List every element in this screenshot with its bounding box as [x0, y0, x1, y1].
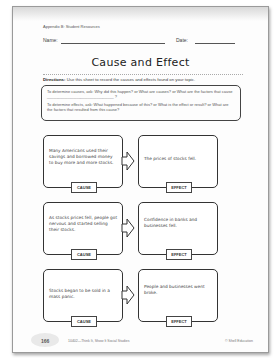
directions: Directions: Use this sheet to record the… — [43, 77, 195, 82]
cause-text: As stocks prices fell, people got nervou… — [49, 215, 118, 233]
footer-title: 10402—Think It, Show It Social Studies — [68, 339, 129, 343]
name-field[interactable] — [61, 43, 165, 44]
effect-label: EFFECT — [166, 316, 192, 327]
directions-label: Directions: — [43, 77, 65, 82]
cause-box[interactable]: As stocks prices fell, people got nervou… — [43, 202, 123, 255]
date-label: Date: — [176, 37, 188, 43]
question-box: To determine causes, ask: Why did this h… — [41, 85, 241, 121]
effect-text: Confidence in banks and businesses fell. — [144, 217, 213, 229]
page-shadow — [13, 7, 268, 21]
cause-box[interactable]: Many Americans used their savings and bo… — [43, 135, 123, 188]
cause-box[interactable]: Stocks began to be sold in a mass panic. — [43, 269, 123, 322]
effect-text: The prices of stocks fell. — [144, 156, 213, 162]
directions-text: Use this sheet to record the causes and … — [65, 77, 195, 82]
effect-box[interactable]: The prices of stocks fell. — [138, 135, 218, 188]
effect-label: EFFECT — [166, 182, 192, 193]
cause-effect-row: Many Americans used their savings and bo… — [43, 135, 257, 195]
cause-label: CAUSE — [71, 182, 97, 193]
cause-effect-row: Stocks began to be sold in a mass panic.… — [43, 269, 257, 329]
name-label: Name: — [43, 37, 58, 43]
cause-effect-row: As stocks prices fell, people got nervou… — [43, 202, 257, 262]
date-field[interactable] — [195, 43, 235, 44]
worksheet-page: Appendix B: Student Resources Name: Date… — [12, 6, 269, 353]
arrow-right-icon — [121, 218, 135, 238]
arrow-right-icon — [121, 151, 135, 171]
effect-question: To determine effects, ask: What happened… — [47, 102, 235, 112]
footer-copyright: © Shell Education — [225, 339, 253, 343]
page-number: 166 — [41, 338, 49, 344]
page-title: Cause and Effect — [13, 56, 268, 69]
cause-label: CAUSE — [71, 316, 97, 327]
cause-text: Many Americans used their savings and bo… — [49, 148, 118, 166]
effect-box[interactable]: Confidence in banks and businesses fell. — [138, 202, 218, 255]
effect-label: EFFECT — [166, 249, 192, 260]
arrow-right-icon — [121, 285, 135, 305]
effect-box[interactable]: People and businesses went broke. — [138, 269, 218, 322]
effect-text: People and businesses went broke. — [144, 284, 213, 296]
appendix-header: Appendix B: Student Resources — [43, 24, 100, 29]
cause-question: To determine causes, ask: Why did this h… — [47, 89, 235, 99]
cause-label: CAUSE — [71, 249, 97, 260]
cause-text: Stocks began to be sold in a mass panic. — [49, 288, 118, 300]
title-underline — [43, 71, 243, 75]
